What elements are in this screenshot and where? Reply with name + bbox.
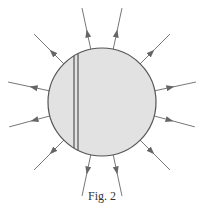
sphere-field-diagram xyxy=(0,0,204,215)
field-line xyxy=(152,115,195,126)
arrow-head-icon xyxy=(53,151,54,152)
field-line xyxy=(82,8,91,51)
field-line xyxy=(34,34,65,65)
field-line xyxy=(139,139,170,170)
sphere xyxy=(48,48,156,156)
arrow-head-icon xyxy=(151,151,152,152)
field-line xyxy=(8,82,51,91)
arrow-head-icon xyxy=(151,53,152,54)
field-line xyxy=(9,115,52,126)
field-line xyxy=(153,82,196,91)
figure-caption: Fig. 2 xyxy=(0,189,204,204)
field-line xyxy=(113,8,122,51)
arrow-head-icon xyxy=(53,53,54,54)
field-line xyxy=(34,139,65,170)
field-line xyxy=(139,34,170,65)
